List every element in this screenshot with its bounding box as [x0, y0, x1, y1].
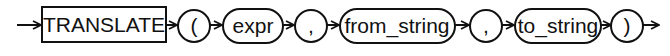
- nonterminal-label: from_string: [344, 14, 449, 38]
- nonterminal-to-string: to_string: [515, 9, 601, 43]
- terminal-open-paren: (: [178, 10, 210, 42]
- terminal-label: (: [191, 14, 198, 37]
- nonterminal-label: to_string: [518, 14, 599, 38]
- terminal-comma-2: ,: [470, 10, 502, 42]
- terminal-close-paren: ): [611, 10, 643, 42]
- terminal-label: ,: [483, 14, 489, 37]
- nonterminal-from-string: from_string: [340, 9, 455, 43]
- terminal-label: ): [624, 14, 631, 37]
- nonterminal-label: expr: [233, 14, 274, 37]
- keyword-label: TRANSLATE: [43, 13, 165, 36]
- keyword-translate: TRANSLATE: [42, 7, 166, 42]
- terminal-comma-1: ,: [295, 10, 327, 42]
- syntax-diagram: TRANSLATE ( expr , from_string , to_stri…: [0, 0, 670, 56]
- nonterminal-expr: expr: [223, 9, 283, 43]
- terminal-label: ,: [308, 14, 314, 37]
